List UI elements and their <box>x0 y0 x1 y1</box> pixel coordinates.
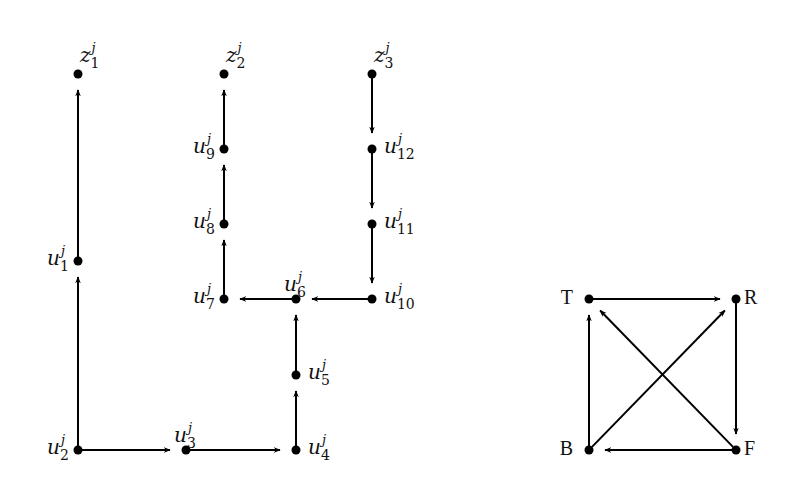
node-u10: uj10 <box>368 281 415 312</box>
node-z1: zj1 <box>74 40 100 79</box>
node-dot <box>732 295 741 304</box>
node-dot <box>368 295 377 304</box>
node-label: uj9 <box>193 131 215 162</box>
node-dot <box>74 70 83 79</box>
node-F: F <box>732 437 756 459</box>
node-u5: uj5 <box>292 357 330 388</box>
node-label: zj3 <box>373 40 394 71</box>
node-dot <box>292 371 301 380</box>
node-label: zj2 <box>225 40 246 71</box>
node-label: uj6 <box>284 269 306 300</box>
node-label: uj2 <box>47 432 69 463</box>
node-label: uj12 <box>384 131 415 162</box>
node-dot <box>732 446 741 455</box>
node-dot <box>585 446 594 455</box>
node-dot <box>220 295 229 304</box>
node-dot <box>292 446 301 455</box>
node-dot <box>220 220 229 229</box>
square-edge-F-T <box>600 310 733 447</box>
node-label: uj10 <box>384 281 415 312</box>
node-dot <box>74 446 83 455</box>
node-z2: zj2 <box>220 40 246 79</box>
square-edges <box>589 299 736 450</box>
node-label: uj4 <box>308 432 330 463</box>
node-label: R <box>744 286 758 308</box>
node-label: F <box>744 437 755 459</box>
gadget-nodes: zj1zj2zj3uj1uj2uj3uj4uj5uj6uj7uj8uj9uj10… <box>47 40 415 463</box>
node-z3: zj3 <box>368 40 394 79</box>
node-label: uj3 <box>174 420 196 451</box>
node-u12: uj12 <box>368 131 415 162</box>
node-label: uj1 <box>47 243 69 274</box>
node-dot <box>220 70 229 79</box>
diagram-canvas: zj1zj2zj3uj1uj2uj3uj4uj5uj6uj7uj8uj9uj10… <box>0 0 798 488</box>
node-label: uj11 <box>384 206 415 237</box>
node-dot <box>220 145 229 154</box>
node-label: B <box>560 437 573 459</box>
gadget-edges <box>78 78 372 450</box>
node-dot <box>368 145 377 154</box>
node-u3: uj3 <box>174 420 196 455</box>
node-dot <box>368 220 377 229</box>
node-u11: uj11 <box>368 206 415 237</box>
node-T: T <box>561 286 594 308</box>
node-dot <box>74 257 83 266</box>
node-dot <box>585 295 594 304</box>
node-label: uj7 <box>193 281 215 312</box>
node-label: uj5 <box>308 357 330 388</box>
node-label: T <box>561 286 573 308</box>
node-dot <box>368 70 377 79</box>
node-label: zj1 <box>79 40 100 71</box>
square-edge-B-R <box>592 310 725 447</box>
node-u4: uj4 <box>292 432 330 463</box>
node-label: uj8 <box>193 206 215 237</box>
